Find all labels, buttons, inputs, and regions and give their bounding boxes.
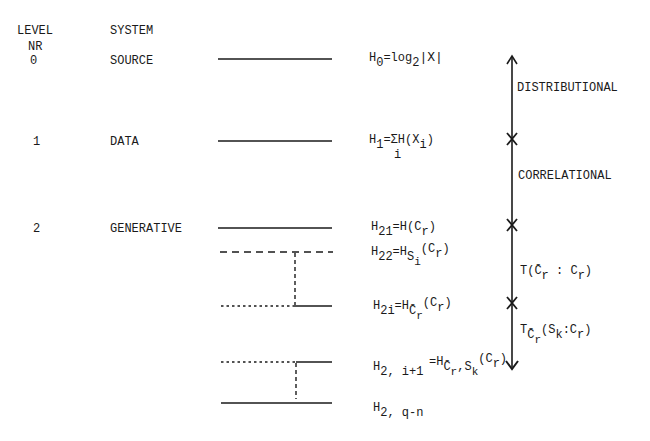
- formula-h0: H0=log2|X|: [369, 51, 443, 65]
- formula-h21: H21=H(Cr): [371, 220, 436, 234]
- label-transmission-2: TC̄r(Sk:Cr): [520, 323, 591, 340]
- label-distributional: DISTRIBUTIONAL: [517, 81, 618, 95]
- label-transmission-1: T(C̄r : Cr): [520, 264, 592, 278]
- formula-h2i1-rhs: =HC̄r,Sk(Cr): [429, 355, 507, 372]
- formula-h2i1: H2, i+1: [373, 360, 423, 374]
- formula-h2i: H2i=HC̄r(Cr): [373, 299, 452, 316]
- formula-h2qn: H2, q-n: [373, 401, 423, 415]
- label-correlational: CORRELATIONAL: [518, 169, 612, 183]
- formula-h1-sum-index: i: [394, 148, 401, 162]
- diagram-lines: [0, 0, 650, 441]
- formula-h22: H22=HSi(Cr): [371, 245, 450, 262]
- formula-h1: H1=ΣH(Xi): [369, 133, 434, 147]
